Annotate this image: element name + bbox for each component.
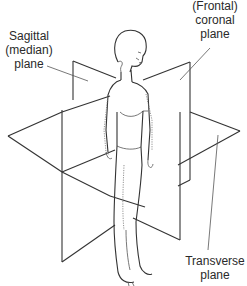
- transverse-label-line2: plane: [184, 268, 246, 282]
- sagittal-label-line1: Sagittal: [2, 29, 56, 43]
- sagittal-label-line3: plane: [2, 57, 56, 71]
- transverse-plane-label: Transverse plane: [184, 254, 246, 282]
- transverse-leader-line: [208, 135, 218, 250]
- coronal-label-line2: coronal: [184, 13, 246, 27]
- transverse-label-line1: Transverse: [184, 254, 246, 268]
- transverse-plane: [8, 112, 240, 207]
- human-figure: [104, 30, 153, 286]
- coronal-label-line1: (Frontal): [184, 0, 246, 13]
- sagittal-plane-label: Sagittal (median) plane: [2, 29, 56, 71]
- sagittal-label-line2: (median): [2, 43, 56, 57]
- sagittal-plane: [62, 61, 116, 262]
- coronal-plane-label: (Frontal) coronal plane: [184, 0, 246, 41]
- coronal-label-line3: plane: [184, 27, 246, 41]
